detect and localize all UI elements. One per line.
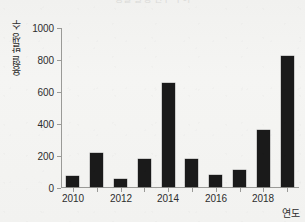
bar — [114, 179, 127, 187]
bar — [209, 175, 222, 187]
y-tick-label: 600 — [38, 87, 54, 98]
x-tick-label: 2014 — [157, 193, 179, 204]
bar — [281, 56, 294, 187]
y-tick-label: 0 — [49, 183, 54, 194]
x-tick — [73, 188, 74, 192]
x-tick — [121, 188, 122, 192]
x-tick — [240, 188, 241, 192]
x-tick — [97, 188, 98, 192]
x-tick-label: 2016 — [205, 193, 227, 204]
plot-area: 02004006008001000 20102012201420162018 — [61, 28, 299, 188]
y-tick — [57, 92, 61, 93]
x-tick-label: 2010 — [62, 193, 84, 204]
y-tick — [57, 188, 61, 189]
y-tick-label: 200 — [38, 151, 54, 162]
bar — [185, 159, 198, 187]
chart-figure: 용혈 발생 건수 추이 용혈 발생 수 02004006008001000 20… — [0, 0, 305, 222]
x-tick — [168, 188, 169, 192]
x-tick — [144, 188, 145, 192]
y-tick-label: 800 — [38, 55, 54, 66]
y-axis-title: 용혈 발생 수 — [11, 20, 25, 76]
chart-title: 용혈 발생 건수 추이 — [0, 0, 305, 9]
x-tick-label: 2018 — [252, 193, 274, 204]
bar — [233, 170, 246, 187]
x-tick — [263, 188, 264, 192]
x-tick-label: 2012 — [110, 193, 132, 204]
y-tick — [57, 60, 61, 61]
x-axis-title: 연도 — [282, 205, 300, 220]
y-tick — [57, 156, 61, 157]
y-tick — [57, 124, 61, 125]
y-tick-label: 400 — [38, 119, 54, 130]
bar — [138, 159, 151, 187]
bar — [66, 176, 79, 187]
x-tick — [192, 188, 193, 192]
x-tick — [216, 188, 217, 192]
chart-title-text: 용혈 발생 건수 추이 — [115, 0, 191, 4]
x-tick — [287, 188, 288, 192]
bar — [162, 83, 175, 187]
y-tick-label: 1000 — [32, 23, 54, 34]
y-tick — [57, 28, 61, 29]
y-axis-line — [61, 28, 62, 188]
bar — [257, 130, 270, 187]
bar — [90, 153, 103, 187]
